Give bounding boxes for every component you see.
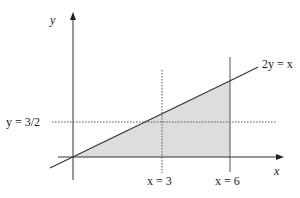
y-axis-label: y (49, 13, 56, 27)
line-equation-label: 2y = x (262, 57, 293, 71)
x-axis-arrow-icon (276, 154, 284, 160)
y-axis-arrow-icon (70, 12, 76, 20)
x-6-label: x = 6 (215, 174, 240, 188)
line-2y-equals-x-ext (242, 67, 258, 75)
diagram-canvas: y x 2y = x y = 3/2 x = 3 x = 6 (0, 0, 300, 198)
horizontal-guide-label: y = 3/2 (6, 115, 40, 129)
x-3-label: x = 3 (147, 174, 172, 188)
x-axis-label: x (273, 164, 280, 178)
